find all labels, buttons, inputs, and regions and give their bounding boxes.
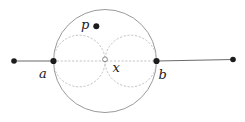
center-x-marker [103, 57, 108, 62]
point-b-dot [153, 58, 159, 64]
point-p-dot [93, 23, 99, 29]
label-x: x [113, 60, 121, 75]
label-p: p [81, 17, 90, 32]
figure-canvas: paxb [0, 0, 245, 122]
point-a-dot [50, 58, 56, 64]
geometry-figure: paxb [0, 0, 245, 122]
label-a: a [39, 66, 47, 81]
label-b: b [159, 67, 167, 82]
right-endpoint-dot [230, 57, 236, 63]
line-right-segment [157, 60, 234, 62]
left-endpoint-dot [11, 58, 17, 64]
